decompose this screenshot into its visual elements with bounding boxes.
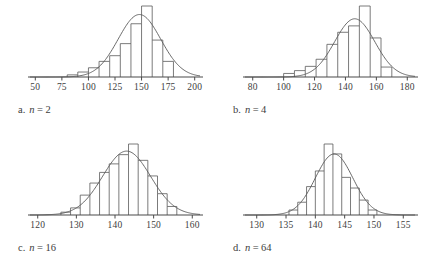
caption-variable-c: n — [25, 242, 34, 253]
x-axis-tick-label: 120 — [307, 82, 322, 92]
normal-curve — [30, 151, 200, 215]
x-axis-tick-label: 100 — [276, 82, 291, 92]
x-axis-tick-label: 140 — [338, 82, 353, 92]
figure-grid: 5075100125150175200 a.n=2 80100120140160… — [0, 0, 430, 276]
x-axis-tick-label: 150 — [146, 220, 161, 230]
panel-caption-a: a.n=2 — [18, 104, 51, 115]
x-axis-tick-labels-b: 80100120140160180 — [215, 82, 430, 98]
x-axis-tick-labels-c: 120130140150160 — [0, 220, 215, 236]
panel-d: 130135140145150155 d.n=64 — [215, 138, 430, 276]
x-axis-tick-label: 155 — [396, 220, 411, 230]
caption-equals-b: = — [250, 104, 261, 115]
x-axis-tick-label: 80 — [248, 82, 258, 92]
normal-curve — [245, 154, 415, 215]
histogram-plot-a — [0, 0, 215, 92]
caption-letter-d: d. — [233, 242, 241, 253]
caption-letter-b: b. — [233, 104, 241, 115]
caption-variable-d: n — [241, 242, 250, 253]
histogram-plot-b — [215, 0, 430, 92]
x-axis-tick-label: 180 — [400, 82, 415, 92]
histogram-plot-d — [215, 138, 430, 230]
caption-value-b: 4 — [261, 104, 266, 115]
caption-equals-a: = — [35, 104, 46, 115]
normal-curve — [30, 15, 200, 77]
caption-variable-a: n — [25, 104, 34, 115]
x-axis-tick-label: 200 — [187, 82, 202, 92]
panel-a: 5075100125150175200 a.n=2 — [0, 0, 215, 138]
x-axis-tick-label: 140 — [108, 220, 123, 230]
caption-variable-b: n — [241, 104, 250, 115]
x-axis-tick-labels-d: 130135140145150155 — [215, 220, 430, 236]
panel-caption-c: c.n=16 — [18, 242, 56, 253]
normal-curve — [245, 19, 415, 77]
x-axis-tick-label: 50 — [30, 82, 40, 92]
x-axis-tick-label: 120 — [30, 220, 45, 230]
x-axis-tick-label: 160 — [185, 220, 200, 230]
x-axis-tick-label: 150 — [367, 220, 382, 230]
x-axis-tick-label: 150 — [134, 82, 149, 92]
x-axis-tick-label: 160 — [369, 82, 384, 92]
x-axis-tick-label: 75 — [57, 82, 67, 92]
x-axis-tick-label: 130 — [69, 220, 84, 230]
x-axis-tick-labels-a: 5075100125150175200 — [0, 82, 215, 98]
caption-value-a: 2 — [45, 104, 50, 115]
panel-caption-b: b.n=4 — [233, 104, 266, 115]
panel-c: 120130140150160 c.n=16 — [0, 138, 215, 276]
caption-equals-d: = — [250, 242, 261, 253]
x-axis-tick-label: 130 — [249, 220, 264, 230]
caption-value-d: 64 — [261, 242, 272, 253]
x-axis-tick-label: 125 — [108, 82, 123, 92]
panel-caption-d: d.n=64 — [233, 242, 272, 253]
x-axis-tick-label: 175 — [161, 82, 176, 92]
x-axis-tick-label: 145 — [337, 220, 352, 230]
histogram-plot-c — [0, 138, 215, 230]
x-axis-tick-label: 100 — [81, 82, 96, 92]
caption-equals-c: = — [35, 242, 46, 253]
caption-value-c: 16 — [45, 242, 56, 253]
x-axis-tick-label: 140 — [308, 220, 323, 230]
panel-b: 80100120140160180 b.n=4 — [215, 0, 430, 138]
x-axis-tick-label: 135 — [279, 220, 294, 230]
